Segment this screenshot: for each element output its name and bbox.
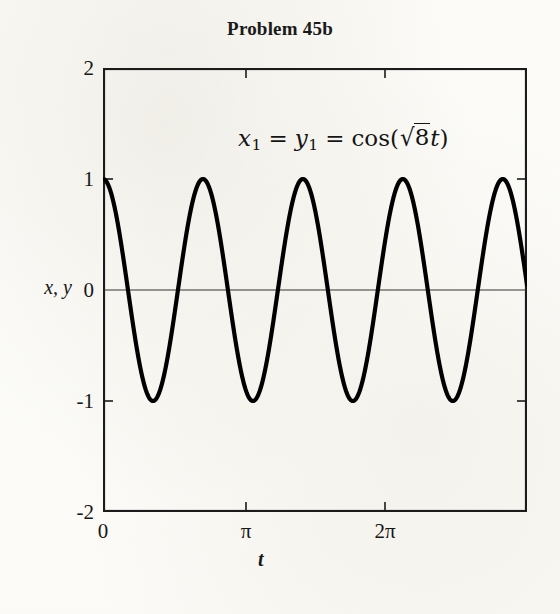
- curve-equation-annotation: x1=y1=cos(√8t): [238, 124, 449, 154]
- x-axis-label: t: [258, 548, 264, 571]
- ytick-label-minus2: -2: [77, 500, 95, 525]
- xtick-label-2pi: 2π: [374, 519, 395, 544]
- annotation-equals-1: =: [268, 125, 287, 151]
- ytick-label-2: 2: [84, 56, 95, 81]
- annotation-radicand: 8: [414, 123, 431, 150]
- annotation-lhs-var: x: [238, 125, 251, 151]
- annotation-equals-2: =: [325, 125, 344, 151]
- annotation-mid-sub: 1: [308, 135, 318, 154]
- annotation-mid-var: y: [295, 125, 308, 151]
- annotation-lhs-sub: 1: [251, 135, 261, 154]
- y-axis-label: x, y: [44, 276, 72, 299]
- ytick-label-minus1: -1: [77, 389, 95, 414]
- annotation-radical-group: √8: [399, 124, 430, 151]
- annotation-close-paren: ): [440, 125, 449, 151]
- figure-page: Problem 45b 2 1 0 -1 -2 0 π 2: [0, 0, 560, 614]
- xtick-label-pi: π: [241, 519, 252, 544]
- figure-title: Problem 45b: [0, 18, 560, 40]
- xtick-label-0: 0: [98, 519, 109, 544]
- ytick-label-0: 0: [84, 278, 95, 303]
- plot-area: 2 1 0 -1 -2 0 π 2π x, y t x1=y1=cos(√8t): [103, 68, 527, 512]
- annotation-cos-open: cos(: [351, 125, 399, 151]
- ytick-label-1: 1: [84, 167, 95, 192]
- annotation-arg-var: t: [430, 125, 439, 151]
- radical-sign-icon: √: [400, 124, 415, 152]
